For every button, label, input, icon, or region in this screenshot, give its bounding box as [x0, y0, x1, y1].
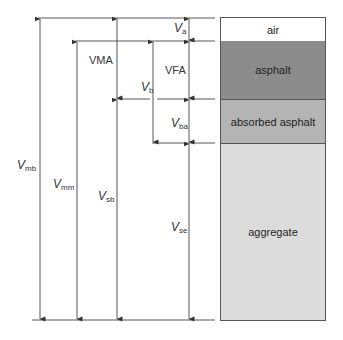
- label-vsb: Vsb: [98, 189, 114, 204]
- label-vmm: Vmm: [53, 177, 74, 192]
- label-va: Va: [174, 21, 186, 36]
- phase-air-label: air: [267, 24, 279, 36]
- label-vb: Vb: [141, 80, 153, 95]
- label-vse: Vse: [171, 220, 187, 235]
- phase-aggregate-label: aggregate: [248, 226, 298, 238]
- phase-absorbed-asphalt-label: absorbed asphalt: [231, 116, 315, 128]
- volumetric-diagram: air asphalt absorbed asphalt aggregate V…: [0, 0, 343, 340]
- phase-absorbed-asphalt: absorbed asphalt: [220, 99, 326, 144]
- phase-asphalt: asphalt: [220, 41, 326, 100]
- phase-air: air: [220, 17, 326, 42]
- label-vfa: VFA: [165, 64, 186, 76]
- phase-aggregate: aggregate: [220, 143, 326, 321]
- phase-asphalt-label: asphalt: [255, 64, 290, 76]
- label-vma: VMA: [89, 54, 113, 66]
- label-vmb: Vmb: [17, 158, 36, 173]
- label-vba: Vba: [171, 116, 188, 131]
